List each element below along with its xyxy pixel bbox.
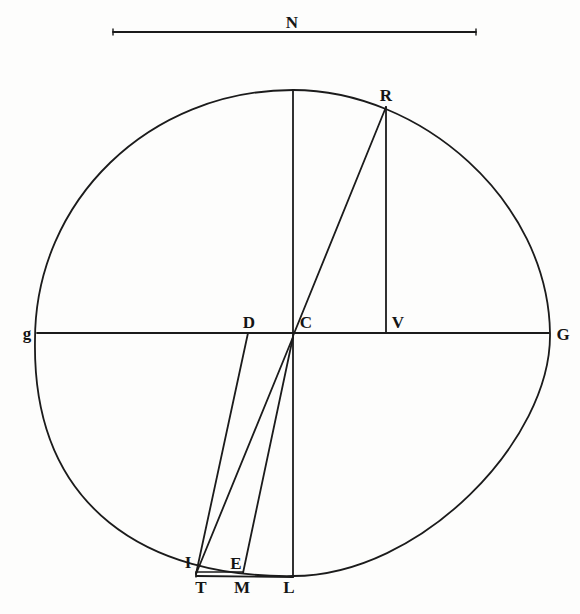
line-TL: [196, 576, 293, 577]
label-r: R: [380, 86, 393, 105]
label-l: L: [283, 578, 294, 597]
construction-lines: [37, 90, 549, 577]
label-d: D: [243, 313, 255, 332]
point-labels: R g D C V G I E T M L: [23, 86, 570, 597]
label-t: T: [195, 578, 207, 597]
label-n: N: [286, 13, 299, 32]
line-CI: [196, 337, 293, 574]
label-e: E: [230, 554, 241, 573]
label-g: g: [23, 324, 32, 343]
label-v: V: [392, 313, 405, 332]
label-g-upper: G: [556, 325, 569, 344]
geometric-diagram: N R g D C V G I E T M L: [0, 0, 580, 614]
label-i: I: [185, 553, 192, 572]
line-DI: [196, 333, 248, 574]
label-c: C: [300, 313, 312, 332]
label-m: M: [234, 578, 250, 597]
scale-bar-n: N: [113, 13, 476, 35]
line-CE: [243, 337, 293, 573]
line-CR: [293, 107, 386, 336]
